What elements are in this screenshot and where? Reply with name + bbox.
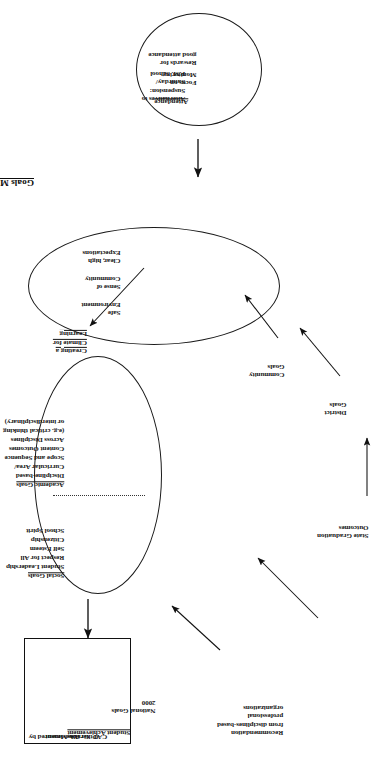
label-district-goals: District Goals (324, 400, 346, 417)
arrow-district-goals (300, 328, 340, 376)
label-community-goals: Community Goals (249, 362, 285, 379)
label-national-goals: National Goals 2000 (112, 698, 156, 715)
academic-goals-item-6: or interdisciplinary) (5, 418, 64, 426)
social-goals-item-0: Student Leadership (6, 563, 64, 571)
label-state-graduation-outcomes: State Graduation Outcomes (317, 523, 368, 540)
social-goals-item-4: School Spirit (26, 527, 64, 535)
page-title: Goals Map (0, 178, 34, 188)
outcome-measure-cat: CAT (93, 733, 107, 741)
academic-goals-heading: Academic Goals (16, 481, 64, 489)
arrow-national-goals (172, 606, 220, 650)
outcome-measure-other-assessment: Other Assessment (46, 733, 99, 741)
academic-goals-item-0: Discipline-based (16, 472, 64, 480)
student-achievement-box: Student Achievement Measured by OA Grade… (24, 638, 131, 744)
social-goals-item-1: Respect for All (21, 554, 65, 562)
academic-goals-item-5: (e.g. critical thinking (3, 427, 64, 435)
climate-heading: Creating a Climate for Learning (53, 330, 87, 355)
label-recommendation: Recommendation from disciplines-based pr… (217, 704, 283, 737)
academic-goals-item-4: Across Disciplines (11, 436, 64, 444)
arrow-recommendation (258, 558, 318, 618)
academic-goals-item-1: Curricular Area/ (14, 463, 64, 471)
goals-map-diagram: Goals Map Student Achievement Measured b… (0, 0, 389, 758)
climate-ellipse (28, 227, 280, 345)
academic-goals-item-2: Scope and Sequence (5, 454, 65, 462)
academic-goals-item-3: Content Outcomes (9, 445, 64, 453)
social-goals-item-3: Citizenship (31, 536, 64, 544)
goals-ellipse-divider (53, 495, 145, 496)
attendance-right-item-0: Alternatives to Suspension: Saturday/ P.… (142, 70, 186, 103)
climate-item-clear-high-expectations: Clear, high Expectations (83, 248, 121, 265)
social-goals-heading: Social Goals (28, 572, 64, 580)
climate-item-safe-environment: Safe Environment (81, 300, 120, 317)
climate-item-sense-of-community: Sense of Community (85, 274, 121, 291)
social-goals-item-2: Self Esteem (30, 545, 64, 553)
attendance-left-item-1: Rewards for good attendance (148, 50, 196, 67)
